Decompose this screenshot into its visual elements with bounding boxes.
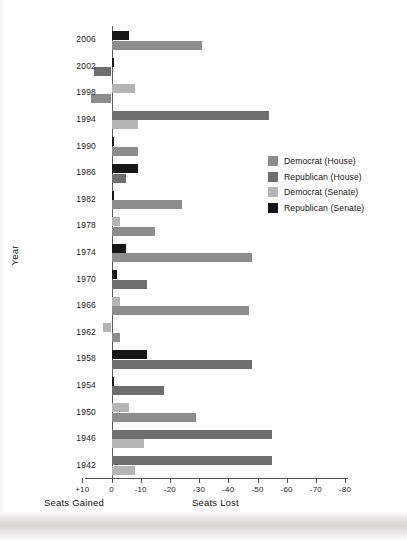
x-tick-label: -50: [243, 485, 273, 494]
bar: [112, 111, 270, 120]
bar: [112, 413, 197, 422]
x-tick-label: -80: [330, 485, 360, 494]
y-tick-label: 1994: [50, 114, 96, 124]
x-tick-label: -20: [155, 485, 185, 494]
y-tick-label: 1962: [50, 327, 96, 337]
x-tick: [345, 478, 346, 483]
bar: [94, 67, 112, 76]
bar: [112, 164, 138, 173]
bar: [112, 244, 127, 253]
legend-label-democrat-house: Democrat (House): [284, 156, 356, 166]
legend-label-republican-senate: Republican (Senate): [284, 203, 364, 213]
y-tick-label: 2006: [50, 34, 96, 44]
y-tick-label: 1974: [50, 247, 96, 257]
legend-swatch-republican-senate: [268, 203, 278, 213]
x-tick-label: -10: [126, 485, 156, 494]
bar: [112, 137, 115, 146]
x-tick: [258, 478, 259, 483]
y-tick-label: 1986: [50, 167, 96, 177]
x-tick: [228, 478, 229, 483]
bar: [112, 297, 121, 306]
x-tick: [112, 478, 113, 483]
y-tick-label: 1950: [50, 407, 96, 417]
bar: [112, 227, 156, 236]
bar: [112, 31, 130, 40]
y-tick-label: 2002: [50, 61, 96, 71]
bar: [112, 386, 165, 395]
bar: [112, 403, 130, 412]
y-tick-label: 1966: [50, 300, 96, 310]
legend-item: Republican (Senate): [268, 202, 364, 214]
x-tick-label: -60: [272, 485, 302, 494]
bar: [112, 253, 252, 262]
y-tick-label: 1954: [50, 380, 96, 390]
x-tick-label: 0: [97, 485, 127, 494]
x-axis-title-left: Seats Gained: [44, 497, 104, 508]
x-tick: [316, 478, 317, 483]
x-tick: [287, 478, 288, 483]
y-tick-label: 1942: [50, 460, 96, 470]
bar: [112, 41, 203, 50]
midterm-seat-change-chart: 2006200219981994199019861982197819741970…: [0, 0, 407, 541]
legend-swatch-republican-house: [268, 172, 278, 182]
scan-shadow: [0, 512, 407, 541]
bar: [112, 147, 138, 156]
bar: [112, 270, 118, 279]
bar: [112, 456, 273, 465]
bar: [112, 58, 115, 67]
legend-label-republican-house: Republican (House): [284, 172, 362, 182]
bar: [112, 306, 249, 315]
y-tick-label: 1990: [50, 141, 96, 151]
legend-label-democrat-senate: Democrat (Senate): [284, 187, 358, 197]
x-tick-label: +10: [67, 485, 97, 494]
y-axis-title: Year: [9, 234, 20, 278]
x-tick: [141, 478, 142, 483]
bar: [112, 360, 252, 369]
x-axis-title-right: Seats Lost: [192, 497, 239, 508]
bar: [112, 333, 121, 342]
legend-item: Republican (House): [268, 171, 364, 183]
x-axis-line: [85, 478, 348, 479]
x-tick-label: -40: [213, 485, 243, 494]
y-tick-label: 1982: [50, 194, 96, 204]
bar: [112, 120, 138, 129]
x-tick: [199, 478, 200, 483]
legend-swatch-democrat-house: [268, 156, 278, 166]
x-tick-label: -70: [301, 485, 331, 494]
legend: Democrat (House) Republican (House) Demo…: [268, 155, 364, 217]
legend-swatch-democrat-senate: [268, 187, 278, 197]
bar: [112, 200, 182, 209]
legend-item: Democrat (House): [268, 155, 364, 167]
bar: [112, 439, 144, 448]
y-tick-label: 1958: [50, 353, 96, 363]
x-tick: [170, 478, 171, 483]
y-tick-label: 1998: [50, 87, 96, 97]
page-edge-shading: [0, 0, 6, 512]
legend-item: Democrat (Senate): [268, 186, 364, 198]
plot-area: 2006200219981994199019861982197819741970…: [0, 0, 407, 541]
y-tick-label: 1970: [50, 274, 96, 284]
x-tick-label: -30: [184, 485, 214, 494]
bar: [112, 350, 147, 359]
bar: [103, 323, 112, 332]
y-tick-label: 1946: [50, 433, 96, 443]
bar: [112, 191, 115, 200]
bar: [112, 430, 273, 439]
bar: [112, 280, 147, 289]
bar: [112, 84, 135, 93]
bar: [112, 466, 135, 475]
x-tick: [82, 478, 83, 483]
bar: [112, 217, 121, 226]
bar: [112, 377, 115, 386]
y-tick-label: 1978: [50, 220, 96, 230]
bar: [112, 174, 127, 183]
